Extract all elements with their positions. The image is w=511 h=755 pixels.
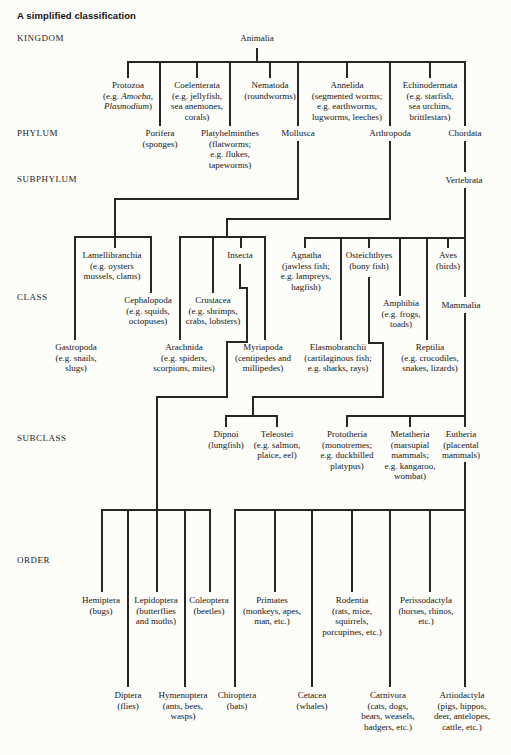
node-agnatha: Agnatha(jawless fish;e.g. lampreys,hagfi… xyxy=(281,250,331,292)
node-name: Perissodactyla xyxy=(398,595,453,606)
node-aves: Aves(birds) xyxy=(436,250,460,271)
node-name: Cetacea xyxy=(297,690,328,701)
node-echinodermata: Echinodermata(e.g. starfish,sea urchins,… xyxy=(403,80,457,122)
node-note-line: wasps) xyxy=(159,711,208,722)
connector-line xyxy=(447,238,449,248)
connector-line xyxy=(264,237,266,340)
node-note-line: mammals) xyxy=(442,450,480,461)
node-reptilia: Reptilia(e.g. crocodiles,snakes, lizards… xyxy=(401,342,458,374)
node-name: Teleostei xyxy=(254,429,301,440)
node-note-line: (cats, dogs, xyxy=(361,701,415,712)
node-note-line: (e.g. salmon, xyxy=(254,440,301,451)
node-nematoda: Nematoda(roundworms) xyxy=(244,80,296,101)
node-note-line: hagfish) xyxy=(281,282,331,293)
node-name: Metatheria xyxy=(385,429,436,440)
node-note-line: (bugs) xyxy=(82,606,120,617)
node-note-line: corals) xyxy=(171,112,223,123)
node-name: Rodentia xyxy=(322,595,382,606)
node-note-line: (segmented worms; xyxy=(312,91,383,102)
connector-line xyxy=(226,342,228,397)
connector-line xyxy=(464,510,466,687)
node-note-line: e.g. flukes, xyxy=(201,149,259,160)
node-note-line: platypus) xyxy=(320,461,373,472)
node-note-line: snakes, lizards) xyxy=(401,363,458,374)
node-note-line: brittlestars) xyxy=(403,112,457,123)
connector-line xyxy=(225,415,278,417)
node-note-line: (lungfish) xyxy=(208,440,244,451)
connector-line xyxy=(464,141,466,172)
node-mammalia: Mammalia xyxy=(442,300,481,311)
node-note-line: e.g. duckbilled xyxy=(320,450,373,461)
connector-line xyxy=(252,396,384,398)
node-animalia: Animalia xyxy=(240,33,274,44)
connector-line xyxy=(269,62,271,78)
node-note-line: (e.g. squids, xyxy=(124,306,172,317)
node-note-line: (e.g. snails, xyxy=(55,353,97,364)
node-gastropoda: Gastropoda(e.g. snails,slugs) xyxy=(55,342,97,374)
node-note-line: (flatworms; xyxy=(201,139,259,150)
node-note-line: squirrels, xyxy=(322,616,382,627)
connector-line xyxy=(429,62,431,78)
node-name: Elasmobranchii xyxy=(304,342,372,353)
connector-line xyxy=(127,510,129,687)
node-note-line: (flies) xyxy=(115,701,142,712)
node-hymenoptera: Hymenoptera(ants, bees,wasps) xyxy=(159,690,208,722)
connector-line xyxy=(297,141,299,199)
node-note-line: mammals; xyxy=(385,450,436,461)
node-note-line: (monkeys, apes, xyxy=(243,606,301,617)
rank-label-phylum: PHYLUM xyxy=(17,128,58,138)
node-note-line: (cartilaginous fish; xyxy=(304,353,372,364)
node-name: Mollusca xyxy=(281,128,315,139)
node-note-line: (horses, rhinos, xyxy=(398,606,453,617)
node-note-line: e.g. lampreys, xyxy=(281,271,331,282)
node-note-line: (bats) xyxy=(218,701,257,712)
node-chiroptera: Chiroptera(bats) xyxy=(218,690,257,711)
node-name: Artiodactyla xyxy=(434,690,490,701)
connector-line xyxy=(252,397,254,416)
node-note-line: octopuses) xyxy=(124,316,172,327)
node-elasmobranchii: Elasmobranchii(cartilaginous fish;e.g. s… xyxy=(304,342,372,374)
connector-line xyxy=(276,416,278,427)
connector-line xyxy=(209,510,211,592)
node-note-line: (pigs, hippos, xyxy=(434,701,490,712)
node-note-line: man, etc.) xyxy=(243,616,301,627)
node-note-line: (e.g. shrimps, xyxy=(186,306,240,317)
connector-line xyxy=(74,236,152,238)
connector-line xyxy=(179,237,181,340)
node-note-line: (e.g. frogs, xyxy=(382,309,421,320)
node-note-line: (jawless fish; xyxy=(281,261,331,272)
node-note-line: e.g. sharks, rays) xyxy=(304,363,372,374)
node-note-line: (e.g. starfish, xyxy=(403,91,457,102)
node-note-line: millipedes) xyxy=(235,363,291,374)
node-name: Primates xyxy=(243,595,301,606)
node-name: Dipnoi xyxy=(208,429,244,440)
node-eutheria: Eutheria(placentalmammals) xyxy=(442,429,480,461)
node-name: Insecta xyxy=(227,250,252,261)
node-note-line: and moths) xyxy=(134,616,177,627)
node-name: Chordata xyxy=(449,128,482,139)
node-name: Cephalopoda xyxy=(124,295,172,306)
node-note-line: (e.g. crocodiles, xyxy=(401,353,458,364)
node-insecta: Insecta xyxy=(227,250,252,261)
node-lamellibranchia: Lamellibranchia(e.g. oystersmussels, cla… xyxy=(83,250,142,282)
node-name: Lamellibranchia xyxy=(83,250,142,261)
connector-line xyxy=(234,509,466,511)
node-note-line: (bony fish) xyxy=(346,261,393,272)
node-name: Crustacea xyxy=(186,295,240,306)
node-note-line: (whales) xyxy=(297,701,328,712)
connector-line xyxy=(101,510,103,592)
node-note-line: lugworms, leeches) xyxy=(312,112,383,123)
node-note-line: (monotremes; xyxy=(320,440,373,451)
node-cetacea: Cetacea(whales) xyxy=(297,690,328,711)
node-name: Hymenoptera xyxy=(159,690,208,701)
rank-label-subclass: SUBCLASS xyxy=(17,433,67,443)
node-note-line: (e.g. oysters xyxy=(83,261,142,272)
node-note-line: (ants, bees, xyxy=(159,701,208,712)
node-name: Lepidoptera xyxy=(134,595,177,606)
node-note-line: wombat) xyxy=(385,471,436,482)
node-name: Myriapoda xyxy=(235,342,291,353)
node-carnivora: Carnivora(cats, dogs,bears, weasels,badg… xyxy=(361,690,415,732)
connector-line xyxy=(346,415,466,417)
node-note-line: (marsupial xyxy=(385,440,436,451)
connector-line xyxy=(150,237,152,293)
